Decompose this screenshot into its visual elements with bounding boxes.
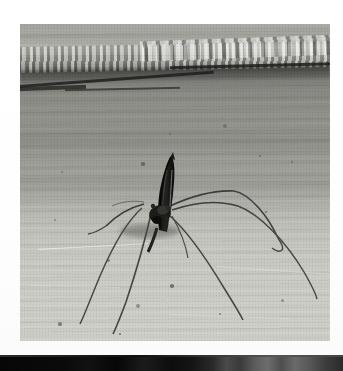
adjacent-photo-edge xyxy=(0,355,343,371)
scan-canvas xyxy=(0,0,343,371)
film-grain-overlay xyxy=(20,24,330,341)
mosquito-photograph xyxy=(20,24,330,341)
adjacent-photo-edge-highlight xyxy=(0,355,343,357)
